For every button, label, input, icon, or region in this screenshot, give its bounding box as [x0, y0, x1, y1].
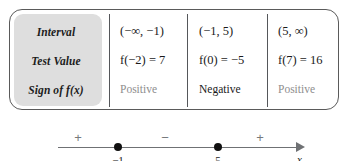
arrow-right-icon — [296, 142, 305, 152]
cell-sign-1: Positive — [120, 83, 157, 95]
row-label-sign-of-fx: Sign of f(x) — [10, 84, 102, 96]
number-line-axis — [58, 147, 303, 148]
cell-interval-3: (5, ∞) — [278, 24, 308, 39]
axis-label-x: x — [297, 153, 302, 161]
sign-analysis-table: Interval Test Value Sign of f(x) (−∞, −1… — [9, 9, 339, 110]
cell-sign-3: Positive — [278, 83, 315, 95]
cell-interval-1: (−∞, −1) — [120, 24, 164, 39]
critical-point-dot-2 — [214, 143, 222, 151]
cell-interval-2: (−1, 5) — [199, 24, 233, 39]
row-label-interval: Interval — [10, 26, 102, 38]
row-label-test-value: Test Value — [10, 55, 102, 67]
column-divider-3 — [267, 14, 268, 107]
cell-test-value-3: f(7) = 16 — [278, 53, 323, 68]
column-divider-2 — [187, 14, 188, 107]
interval-sign-2: − — [155, 130, 175, 145]
figure-root: Interval Test Value Sign of f(x) (−∞, −1… — [0, 0, 351, 161]
cell-test-value-1: f(−2) = 7 — [120, 53, 165, 68]
tick-label-2: 5 — [207, 154, 229, 161]
number-line: + − + −1 5 x — [0, 118, 351, 161]
cell-sign-2: Negative — [199, 83, 241, 95]
interval-sign-3: + — [250, 130, 270, 145]
interval-sign-1: + — [68, 130, 88, 145]
critical-point-dot-1 — [114, 143, 122, 151]
column-divider-1 — [109, 14, 110, 107]
cell-test-value-2: f(0) = −5 — [199, 53, 244, 68]
tick-label-1: −1 — [107, 154, 129, 161]
